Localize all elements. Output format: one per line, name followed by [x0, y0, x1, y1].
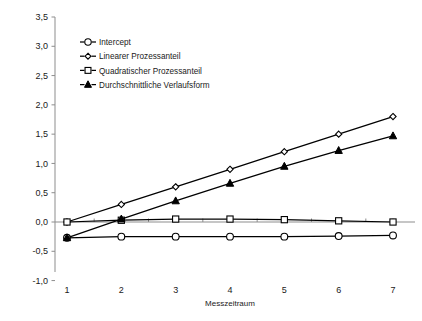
x-tick-label: 3: [173, 285, 178, 295]
legend-label: Quadratischer Prozessanteil: [99, 67, 202, 76]
y-tick-label: 3,5: [35, 12, 48, 22]
x-tick-label: 5: [282, 285, 287, 295]
data-point-marker: [281, 233, 288, 240]
y-tick-label: 3,0: [35, 41, 48, 51]
data-point-marker: [390, 219, 396, 225]
data-point-marker: [85, 81, 92, 88]
data-point-marker: [173, 216, 179, 222]
series-3: [64, 216, 396, 225]
y-tick-label: 0,5: [35, 188, 48, 198]
y-axis-group: -1,0-0,50,00,51,01,52,02,53,03,5: [32, 12, 55, 286]
chart-figure: -1,0-0,50,00,51,01,52,02,53,03,5 1234567…: [0, 0, 422, 321]
data-point-marker: [335, 233, 342, 240]
data-point-marker: [227, 166, 233, 172]
x-axis-group: 1234567 Messzeitraum: [55, 219, 415, 309]
data-point-marker: [390, 113, 396, 119]
x-tick-label: 6: [336, 285, 341, 295]
data-point-marker: [85, 39, 91, 45]
legend-item-1: Intercept: [80, 38, 132, 47]
data-point-marker: [336, 218, 342, 224]
x-tick-label: 2: [119, 285, 124, 295]
x-axis-tick-labels: 1234567: [64, 285, 395, 295]
data-point-marker: [227, 233, 234, 240]
legend-item-2: Linearer Prozessanteil: [80, 52, 181, 61]
y-tick-label: -0,5: [32, 246, 48, 256]
data-point-marker: [227, 216, 233, 222]
y-axis-ticks: [52, 17, 56, 281]
x-tick-label: 1: [64, 285, 69, 295]
data-point-marker: [281, 217, 287, 223]
data-point-marker: [390, 232, 397, 239]
y-tick-label: 1,0: [35, 159, 48, 169]
data-point-marker: [85, 67, 91, 73]
x-tick-label: 7: [390, 285, 395, 295]
x-axis-title: Messzeitraum: [205, 299, 255, 308]
data-point-marker: [118, 201, 124, 207]
legend-label: Linearer Prozessanteil: [99, 52, 181, 61]
series-2: [64, 113, 396, 225]
chart-legend: InterceptLinearer ProzessanteilQuadratis…: [80, 38, 210, 90]
series-1: [64, 232, 397, 241]
y-axis-tick-labels: -1,0-0,50,00,51,01,52,02,53,03,5: [32, 12, 48, 286]
y-tick-label: -1,0: [32, 276, 48, 286]
data-point-marker: [173, 184, 179, 190]
data-point-marker: [172, 233, 179, 240]
legend-label: Intercept: [99, 38, 132, 47]
data-point-marker: [336, 131, 342, 137]
y-tick-label: 1,5: [35, 129, 48, 139]
y-tick-label: 0,0: [35, 217, 48, 227]
legend-item-4: Durchschnittliche Verlaufsform: [80, 81, 210, 90]
legend-item-3: Quadratischer Prozessanteil: [80, 67, 202, 76]
series-4: [63, 132, 396, 241]
data-point-marker: [281, 149, 287, 155]
data-point-marker: [85, 53, 91, 59]
y-tick-label: 2,5: [35, 71, 48, 81]
x-tick-label: 4: [227, 285, 232, 295]
data-point-marker: [64, 219, 70, 225]
data-point-marker: [389, 132, 396, 139]
legend-label: Durchschnittliche Verlaufsform: [99, 81, 210, 90]
line-chart-canvas: -1,0-0,50,00,51,01,52,02,53,03,5 1234567…: [0, 0, 422, 321]
data-point-marker: [118, 233, 125, 240]
y-tick-label: 2,0: [35, 100, 48, 110]
